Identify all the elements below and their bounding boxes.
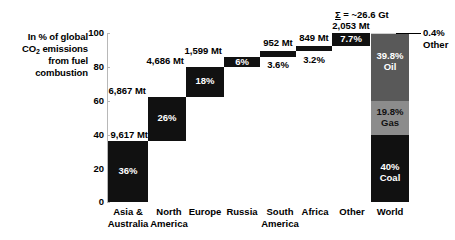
bar-value-asia-australia: 9,617 Mt: [68, 130, 148, 140]
bar-percent-africa: 3.2%: [292, 55, 336, 65]
world-other-callout-label: Other: [423, 39, 448, 51]
y-axis-caption-line2: CO2 emissions: [4, 43, 88, 56]
sigma-symbol: Σ: [335, 9, 341, 20]
bar-value-north-america: 6,867 Mt: [96, 86, 146, 96]
bar-value-europe: 4,686 Mt: [134, 56, 184, 66]
world-other-callout-percent: 0.4%: [423, 27, 445, 39]
bar-percent-asia-australia: 36%: [108, 166, 148, 176]
world-segment-coal: 40% Coal: [371, 135, 409, 202]
world-segment-oil: 39.8% Oil: [371, 34, 409, 101]
world-segment-coal-percent: 40%: [371, 161, 409, 172]
bar-percent-russia: 6%: [224, 57, 260, 67]
bar-value-africa: 849 Mt: [292, 33, 336, 43]
y-tick-label-60: 60: [78, 96, 104, 106]
x-label-world-line1: World: [368, 206, 412, 218]
y-axis-caption-line3: from fuel: [4, 55, 88, 67]
bar-south-america: [260, 51, 296, 57]
y-axis-caption-line4: combustion: [4, 67, 88, 79]
y-tick-label-20: 20: [78, 164, 104, 174]
y-tick-mark-0: [107, 202, 110, 203]
x-label-world: World: [368, 206, 412, 218]
co2-text: CO: [22, 43, 36, 54]
co2-emissions-waterfall-chart: In % of global CO2 emissions from fuel c…: [0, 0, 455, 240]
world-segment-coal-label: Coal: [371, 172, 409, 183]
total-annotation: Σ = ~26.6 Gt: [335, 9, 389, 20]
y-axis-caption-line1: In % of global: [4, 31, 88, 43]
bar-africa: [296, 46, 332, 51]
total-value: = ~26.6 Gt: [343, 9, 388, 20]
y-tick-label-80: 80: [78, 62, 104, 72]
world-segment-oil-percent: 39.8%: [371, 50, 409, 61]
y-tick-mark-60: [107, 101, 110, 102]
world-segment-gas-label: Gas: [371, 117, 409, 128]
y-tick-mark-100: [107, 33, 110, 34]
x-label-north-america-line2: America: [140, 218, 198, 230]
co2-subscript: 2: [36, 48, 40, 55]
bar-value-russia: 1,599 Mt: [172, 46, 222, 56]
bar-value-other: 2,053 Mt: [330, 21, 372, 31]
world-segment-oil-label: Oil: [371, 61, 409, 72]
world-segment-gas-percent: 19.8%: [371, 106, 409, 117]
x-label-south-america-line2: America: [254, 218, 306, 230]
y-tick-mark-80: [107, 67, 110, 68]
emissions-text: emissions: [40, 43, 88, 54]
world-other-callout-line: [396, 33, 421, 34]
y-tick-label-100: 100: [78, 28, 104, 38]
bar-percent-north-america: 26%: [148, 113, 186, 123]
y-axis-caption: In % of global CO2 emissions from fuel c…: [4, 31, 88, 78]
bar-percent-europe: 18%: [186, 76, 224, 86]
bar-percent-other: 7.7%: [332, 34, 370, 44]
world-segment-gas: 19.8% Gas: [371, 101, 409, 135]
